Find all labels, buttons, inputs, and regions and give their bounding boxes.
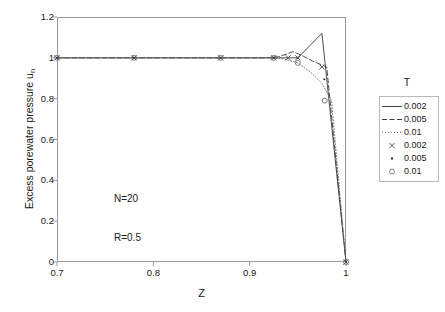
legend-item-label: 0.002	[404, 139, 427, 152]
legend-item-label: 0.01	[404, 126, 422, 139]
legend-item-label: 0.01	[404, 165, 422, 178]
plot-area	[57, 17, 346, 262]
legend-key-icon	[380, 165, 404, 178]
legend-item[interactable]: 0.01	[380, 126, 438, 139]
chart-container: 00.20.40.60.811.2 0.70.80.91 Z Excess po…	[0, 0, 445, 312]
legend-item-label: 0.002	[404, 100, 427, 113]
annotation-line-n: N=20	[114, 192, 141, 205]
legend-item[interactable]: 0.01	[380, 165, 438, 178]
y-axis-title: Excess porewater pressure un	[23, 14, 35, 264]
legend-key-icon	[380, 100, 404, 113]
legend-item-label: 0.005	[404, 113, 427, 126]
x-tick-label: 1	[326, 267, 366, 278]
legend-title: T	[375, 76, 439, 88]
annotation-line-r: R=0.5	[114, 231, 141, 244]
x-axis-title: Z	[57, 287, 346, 299]
legend-key-icon	[380, 139, 404, 152]
x-tick-label: 0.7	[37, 267, 77, 278]
y-axis-title-text: Excess porewater pressure u	[23, 73, 35, 209]
plot-annotation: N=20 R=0.5	[114, 166, 141, 270]
legend-item[interactable]: 0.005	[380, 152, 438, 165]
legend-item-label: 0.005	[404, 152, 427, 165]
legend-key-icon	[380, 113, 404, 126]
legend-key-icon	[380, 152, 404, 165]
legend: 0.0020.0050.010.0020.0050.01	[379, 96, 439, 182]
y-axis-title-subscript: n	[28, 69, 37, 73]
x-tick-label: 0.9	[230, 267, 270, 278]
legend-item[interactable]: 0.002	[380, 139, 438, 152]
legend-item[interactable]: 0.005	[380, 113, 438, 126]
x-axis-tick-labels: 0.70.80.91	[57, 267, 346, 281]
legend-item[interactable]: 0.002	[380, 100, 438, 113]
legend-key-icon	[380, 126, 404, 139]
